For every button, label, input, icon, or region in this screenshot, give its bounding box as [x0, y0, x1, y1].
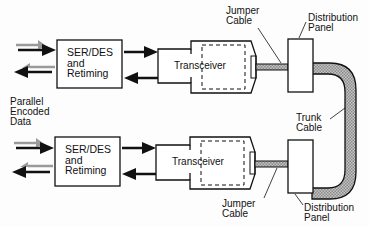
distribution-panel-label-bottom: Distribution Panel	[304, 203, 354, 223]
transceiver-label-bottom: Transceiver	[172, 157, 224, 167]
panel-leader-top	[299, 22, 306, 38]
panel-leader-bottom	[295, 194, 303, 205]
parallel-input-arrow-top	[16, 40, 56, 56]
jumper-leader-bottom	[264, 168, 277, 198]
trunk-cable-label: Trunk Cable	[296, 113, 322, 133]
jumper-cable-label-top: Jumper Cable	[226, 6, 259, 26]
parallel-output-arrow-top	[14, 63, 55, 78]
serdes-to-transceiver-arrow-top	[124, 46, 158, 58]
transceiver-label-top: Transceiver	[174, 61, 226, 71]
jumper-leader-top	[258, 28, 281, 63]
serdes-label-top: SER/DES and Retiming	[67, 47, 113, 79]
jumper-cable-top	[256, 64, 288, 70]
jumper-cable-label-bottom: Jumper Cable	[222, 199, 255, 219]
jumper-cable-bottom	[255, 161, 288, 167]
diagram-canvas: SER/DES and Retiming SER/DES and Retimin…	[0, 0, 369, 227]
parallel-input-arrow-bottom	[14, 138, 54, 154]
transceiver-to-serdes-arrow-bottom	[122, 168, 156, 180]
distribution-panel-top	[288, 39, 313, 92]
trunk-leader	[330, 108, 345, 119]
parallel-data-label: Parallel Encoded Data	[10, 97, 49, 127]
distribution-panel-bottom	[288, 140, 313, 193]
distribution-panel-label-top: Distribution Panel	[308, 13, 358, 33]
serdes-to-transceiver-arrow-bottom	[122, 142, 156, 154]
transceiver-to-serdes-arrow-top	[124, 72, 158, 84]
serdes-label-bottom: SER/DES and Retiming	[65, 144, 111, 176]
parallel-output-arrow-bottom	[12, 162, 53, 178]
